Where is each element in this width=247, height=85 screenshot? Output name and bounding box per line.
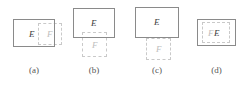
figure-panel-group: E F (a) E F (b) E F (c) F E (d) xyxy=(0,0,247,85)
set-f-label-a: F xyxy=(47,30,53,39)
panel-caption-d: (d) xyxy=(197,66,236,75)
figure-panel-d: F E (d) xyxy=(186,0,247,85)
figure-panel-c: E F (c) xyxy=(124,0,186,85)
set-f-label-d: F xyxy=(208,29,214,38)
panel-caption-a: (a) xyxy=(13,66,55,75)
set-e-label-c: E xyxy=(154,18,160,27)
set-f-label-b: F xyxy=(92,41,98,50)
set-e-label-d: E xyxy=(214,29,220,38)
panel-caption-b: (b) xyxy=(73,66,115,75)
set-e-label-b: E xyxy=(91,19,97,28)
set-f-label-c: F xyxy=(156,45,162,54)
set-e-label-a: E xyxy=(29,30,35,39)
figure-panel-a: E F (a) xyxy=(0,0,62,85)
figure-panel-b: E F (b) xyxy=(62,0,124,85)
panel-caption-c: (c) xyxy=(135,66,179,75)
